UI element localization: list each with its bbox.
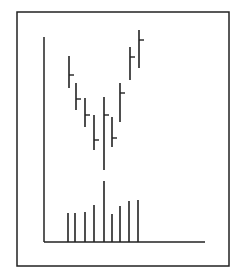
chart-frame	[17, 12, 229, 266]
volume-bars	[68, 181, 138, 242]
chart-axes	[44, 37, 205, 242]
outer-border	[17, 12, 229, 266]
ohlc-volume-chart	[0, 0, 243, 279]
price-bars	[69, 30, 144, 170]
